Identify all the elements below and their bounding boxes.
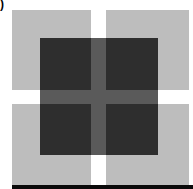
cross-horizontal — [40, 90, 158, 104]
bottom-bar — [12, 185, 193, 189]
panel-label: ) — [0, 0, 4, 11]
